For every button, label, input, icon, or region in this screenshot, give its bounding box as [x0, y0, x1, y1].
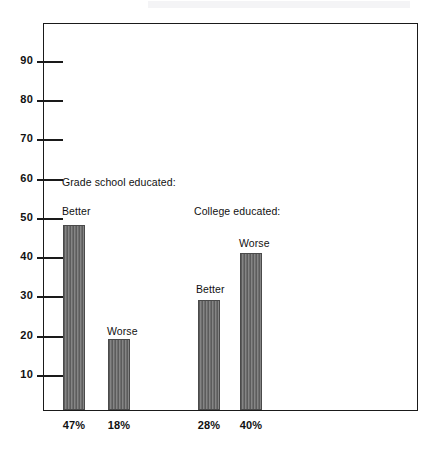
y-axis-tick-10 [37, 375, 63, 377]
x-axis-label-grade-school-worse: 18% [97, 419, 141, 431]
bar-label-college-worse: Worse [239, 237, 270, 249]
y-axis-tick-30 [37, 296, 63, 298]
y-axis-tick-80 [37, 100, 63, 102]
plot-area-frame [43, 23, 418, 411]
bar-grade-school-better [63, 225, 85, 410]
bar-college-worse [240, 253, 262, 410]
y-axis-label-80: 80 [0, 94, 33, 105]
scan-artifact [148, 1, 410, 8]
y-axis-label-70: 70 [0, 133, 33, 144]
y-axis-tick-60 [37, 179, 63, 181]
y-axis-tick-70 [37, 139, 63, 141]
group-label-grade-school: Grade school educated: [62, 176, 176, 188]
y-axis-tick-40 [37, 257, 63, 259]
y-axis-tick-90 [37, 61, 63, 63]
y-axis-label-90: 90 [0, 55, 33, 66]
y-axis-label-60: 60 [0, 173, 33, 184]
y-axis-label-20: 20 [0, 330, 33, 341]
bar-college-better [198, 300, 220, 410]
bar-chart: 90 80 70 60 50 40 30 20 10 Grade school … [0, 0, 435, 449]
y-axis-label-50: 50 [0, 212, 33, 223]
y-axis-tick-20 [37, 336, 63, 338]
group-label-college: College educated: [194, 205, 280, 217]
x-axis-label-college-worse: 40% [229, 419, 273, 431]
bar-label-grade-school-better: Better [62, 205, 91, 217]
y-axis-label-30: 30 [0, 290, 33, 301]
y-axis-label-10: 10 [0, 369, 33, 380]
bar-label-college-better: Better [196, 283, 225, 295]
x-axis-label-college-better: 28% [187, 419, 231, 431]
y-axis-label-40: 40 [0, 251, 33, 262]
y-axis-tick-50 [37, 218, 63, 220]
bar-label-grade-school-worse: Worse [107, 325, 138, 337]
x-axis-label-grade-school-better: 47% [52, 419, 96, 431]
bar-grade-school-worse [108, 339, 130, 410]
